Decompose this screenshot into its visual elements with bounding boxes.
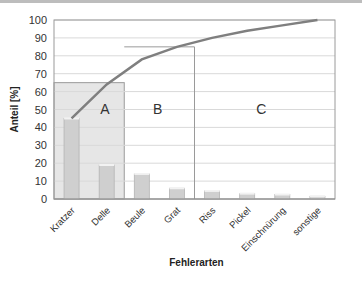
bar-top-highlight xyxy=(240,193,255,195)
x-tick-label: Beule xyxy=(122,205,147,230)
x-tick-label: Grat xyxy=(162,204,183,225)
bar-riss xyxy=(205,191,220,199)
y-tick-label: 90 xyxy=(35,32,47,44)
x-tick-label: sonstige xyxy=(290,205,323,238)
bar-top-highlight xyxy=(275,194,290,196)
x-tick-label: Kratzer xyxy=(48,205,77,234)
x-tick-label: Pickel xyxy=(227,205,253,231)
region-label-b: B xyxy=(153,101,162,117)
y-tick-label: 30 xyxy=(35,139,47,151)
y-tick-label: 0 xyxy=(41,193,47,205)
x-axis-title: Fehlerarten xyxy=(169,257,223,268)
y-tick-label: 20 xyxy=(35,157,47,169)
bar-top-highlight xyxy=(134,173,149,175)
x-tick-label: Delle xyxy=(89,205,112,228)
y-tick-label: 10 xyxy=(35,175,47,187)
bar-top-highlight xyxy=(99,164,114,166)
y-tick-label: 60 xyxy=(35,86,47,98)
y-tick-label: 100 xyxy=(29,14,47,26)
bar-kratzer xyxy=(64,118,79,199)
bar-delle xyxy=(99,165,114,199)
bar-beule xyxy=(134,174,149,199)
y-tick-label: 40 xyxy=(35,121,47,133)
x-tick-label: Riss xyxy=(197,204,218,225)
region-label-a: A xyxy=(100,101,110,117)
bar-top-highlight xyxy=(205,190,220,192)
y-tick-label: 70 xyxy=(35,68,47,80)
bar-top-highlight xyxy=(310,195,325,197)
bar-grat xyxy=(169,188,184,199)
y-axis-title: Anteil [%] xyxy=(9,86,20,132)
pareto-chart: 0102030405060708090100KratzerDelleBeuleG… xyxy=(0,0,362,282)
y-tick-label: 50 xyxy=(35,104,47,116)
y-tick-label: 80 xyxy=(35,50,47,62)
bar-top-highlight xyxy=(169,187,184,189)
region-label-c: C xyxy=(256,101,266,117)
